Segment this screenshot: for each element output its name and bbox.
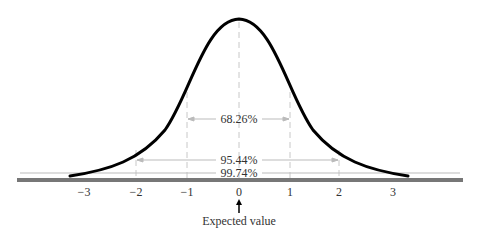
expected-value-label: Expected value bbox=[202, 214, 276, 228]
svg-text:−3: −3 bbox=[78, 185, 91, 199]
svg-text:3: 3 bbox=[390, 185, 396, 199]
expected-value-arrow-icon bbox=[236, 199, 242, 213]
svg-text:−2: −2 bbox=[130, 185, 143, 199]
svg-text:2: 2 bbox=[336, 185, 342, 199]
svg-text:1: 1 bbox=[287, 185, 293, 199]
normal-distribution-diagram: 68.26% 95.44% 99.74% −3 −2 −1 0 1 2 3 Ex… bbox=[0, 0, 478, 239]
svg-text:0: 0 bbox=[236, 185, 242, 199]
label-95: 95.44% bbox=[221, 153, 258, 167]
x-tick-labels: −3 −2 −1 0 1 2 3 bbox=[78, 185, 396, 199]
svg-text:−1: −1 bbox=[181, 185, 194, 199]
label-68: 68.26% bbox=[221, 112, 258, 126]
label-99: 99.74% bbox=[221, 166, 258, 180]
